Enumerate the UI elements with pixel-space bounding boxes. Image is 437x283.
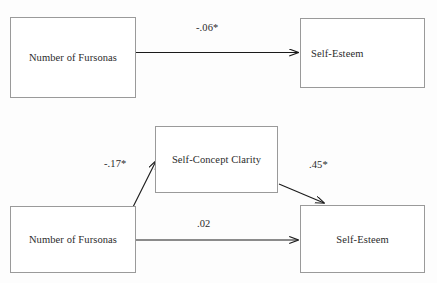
node-predictor-top: Number of Fursonas [10,17,136,98]
node-label-predictor-bottom: Number of Fursonas [29,234,117,245]
node-outcome-bottom: Self-Esteem [300,205,425,273]
path-coefficient-b: .45* [309,159,328,170]
node-label-mediator: Self-Concept Clarity [172,154,261,165]
node-predictor-bottom: Number of Fursonas [10,206,136,273]
arrow-path-a [133,161,156,207]
path-coefficient-a: -.17* [104,158,126,169]
node-label-outcome-bottom: Self-Esteem [336,234,388,245]
arrow-path-b [279,184,324,203]
node-label-outcome-top: Self-Esteem [311,48,363,59]
path-coefficient-c-prime: .02 [197,218,210,229]
node-mediator: Self-Concept Clarity [155,126,278,193]
path-diagram-figure: Number of Fursonas Self-Esteem -.06* Sel… [0,0,437,283]
path-coefficient-total: -.06* [196,22,218,33]
node-label-predictor-top: Number of Fursonas [29,52,117,63]
node-outcome-top: Self-Esteem [300,18,425,88]
